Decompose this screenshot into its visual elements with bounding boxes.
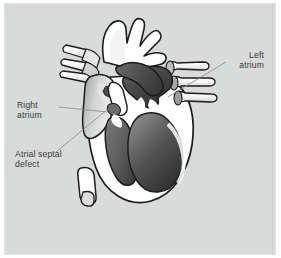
label-atrial-septal-defect: Atrial septal defect [15, 149, 62, 169]
atrial-septal-defect [107, 104, 120, 116]
figure-panel: Right atrium Atrial septal defect Left a… [0, 0, 281, 258]
heart-illustration [0, 0, 281, 258]
label-right-atrium: Right atrium [17, 100, 42, 120]
inferior-vena-cava [78, 168, 96, 207]
label-left-atrium: Left atrium [239, 50, 264, 70]
